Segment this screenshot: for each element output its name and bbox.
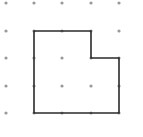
grid-dot [89, 84, 92, 87]
grid-dot [4, 56, 7, 59]
grid-dot [60, 56, 63, 59]
dot-grid-diagram [0, 0, 143, 137]
grid-dot [60, 1, 63, 4]
grid-dot [117, 1, 120, 4]
grid-dot [32, 1, 35, 4]
grid-dot [89, 1, 92, 4]
grid-dot [4, 29, 7, 32]
l-shaped-polygon [34, 31, 119, 113]
grid-dot [4, 111, 7, 114]
grid-dot [4, 1, 7, 4]
grid-dot [117, 29, 120, 32]
grid-dot [60, 84, 63, 87]
grid-dot [4, 84, 7, 87]
